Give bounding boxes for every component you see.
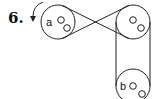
arrowhead-icon (30, 16, 36, 22)
label-b: b (120, 80, 126, 92)
label-a: a (46, 16, 53, 28)
pulley-diagram: a b (0, 0, 155, 99)
pulley-top-right (116, 5, 150, 39)
rotation-arrow-icon (33, 2, 43, 16)
